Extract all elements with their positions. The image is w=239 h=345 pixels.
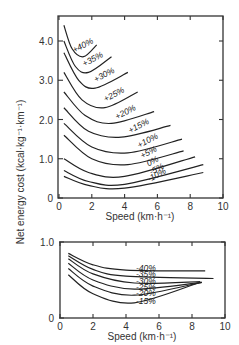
- top-curve-label: +40%: [71, 35, 95, 54]
- top-plot: 0246810 01.02.03.04.0 +40%+35%+30%+25%+2…: [39, 16, 229, 222]
- bottom-y-tick-label: 0: [48, 313, 54, 324]
- top-curve-series: [64, 123, 182, 153]
- top-y-tick-label: 0: [47, 193, 53, 204]
- bottom-plot: 0246810 01.0 -40%-35%-30%-25%-20%-15% Sp…: [40, 237, 231, 342]
- bottom-y-tick-label: 1.0: [40, 237, 54, 248]
- bottom-curve-label: -15%: [136, 296, 156, 306]
- top-y-tick-label: 2.0: [39, 115, 53, 126]
- y-axis-label: Net energy cost (kcal·kg⁻¹·km⁻¹): [15, 100, 26, 244]
- top-x-axis-label: Speed (km·h⁻¹): [106, 211, 175, 222]
- top-curve-label: +30%: [92, 65, 116, 84]
- top-x-tick-label: 10: [217, 201, 229, 212]
- top-x-tick-label: 8: [187, 201, 193, 212]
- top-y-tick-label: 3.0: [39, 75, 53, 86]
- bottom-x-tick-label: 2: [90, 321, 96, 332]
- top-y-tick-label: 1.0: [39, 154, 53, 165]
- bottom-x-tick-label: 10: [219, 321, 231, 332]
- top-x-tick-label: 0: [56, 201, 62, 212]
- top-curve-label: +35%: [81, 49, 105, 68]
- chart-figure: 0246810 01.02.03.04.0 +40%+35%+30%+25%+2…: [0, 0, 239, 345]
- bottom-x-tick-label: 8: [189, 321, 195, 332]
- bottom-x-tick-label: 0: [57, 321, 63, 332]
- top-curve-series: [64, 157, 195, 177]
- top-x-tick-label: 2: [89, 201, 95, 212]
- top-y-tick-label: 4.0: [39, 36, 53, 47]
- bottom-x-axis-label: Speed (km·h⁻¹): [108, 331, 177, 342]
